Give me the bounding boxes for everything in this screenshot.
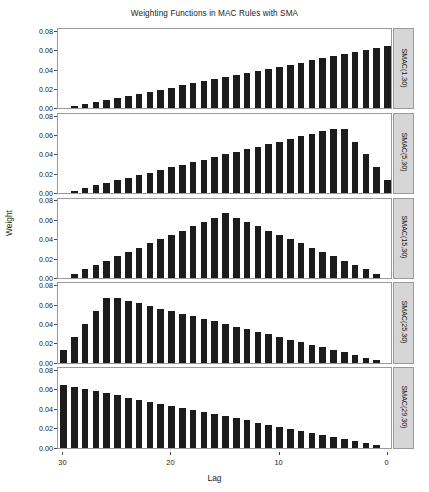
bar [286, 429, 295, 448]
bar [297, 431, 306, 448]
bar [156, 170, 165, 193]
chart-root: Weighting Functions in MAC Rules with SM… [0, 0, 429, 492]
bar-series [58, 29, 391, 108]
bar [200, 319, 209, 363]
bar-series [58, 199, 391, 278]
y-axis-tick-mark [54, 343, 57, 344]
panel-strip-label: SMAC(29,30) [393, 367, 414, 448]
bar [329, 56, 338, 108]
bar [178, 408, 187, 448]
panel-strip-label: SMAC(15,30) [393, 198, 414, 279]
bar [189, 410, 198, 447]
panel-smac2930: 0.000.020.040.060.08SMAC(29,30) [57, 367, 392, 448]
panel-strip-label: SMAC(1,30) [393, 28, 414, 109]
bar [70, 274, 79, 278]
plot-area [57, 113, 392, 194]
y-axis-tick-mark [54, 363, 57, 364]
y-axis-tick-mark [54, 89, 57, 90]
bar [264, 69, 273, 109]
bar [383, 46, 392, 108]
y-axis-tick-label: 0.04 [39, 65, 53, 74]
y-axis-tick-label: 0.06 [39, 46, 53, 55]
y-axis-tick-mark [54, 70, 57, 71]
bar [318, 58, 327, 108]
bar [254, 71, 263, 108]
bar [254, 423, 263, 448]
y-axis-tick-mark [54, 278, 57, 279]
bar [178, 165, 187, 193]
bar [156, 239, 165, 278]
y-axis-tick-label: 0.02 [39, 169, 53, 178]
bar [318, 252, 327, 278]
y-axis-tick-mark [54, 324, 57, 325]
bar [308, 433, 317, 448]
x-axis-tick-mark [170, 452, 171, 455]
bar [372, 48, 381, 108]
bar [340, 352, 349, 362]
bar [308, 60, 317, 108]
bar [167, 235, 176, 278]
bar [124, 398, 133, 448]
bar [318, 131, 327, 193]
bar [59, 385, 68, 447]
bar [167, 88, 176, 109]
y-axis-tick-mark [54, 370, 57, 371]
bar [221, 154, 230, 193]
bar [329, 350, 338, 363]
y-axis-tick-label: 0.02 [39, 85, 53, 94]
bar [167, 167, 176, 193]
y-axis-tick-mark [54, 135, 57, 136]
bar [275, 142, 284, 194]
y-axis-tick-label: 0.06 [39, 385, 53, 394]
bar [308, 345, 317, 363]
bar [210, 414, 219, 447]
y-axis-tick-mark [54, 108, 57, 109]
bar-series [58, 283, 391, 362]
bar [275, 235, 284, 278]
bar [362, 154, 371, 193]
bar [146, 306, 155, 363]
bar [264, 334, 273, 362]
panel-smac130: 0.000.020.040.060.08SMAC(1,30) [57, 28, 392, 109]
y-axis-tick-label: 0.08 [39, 196, 53, 205]
bar [383, 180, 392, 193]
bar [102, 393, 111, 447]
bar [243, 149, 252, 193]
bar [102, 100, 111, 108]
panel-smac1530: 0.000.020.040.060.08SMAC(15,30) [57, 198, 392, 279]
bar [210, 157, 219, 193]
bar [243, 329, 252, 363]
bar [81, 269, 90, 278]
bar [264, 144, 273, 193]
bar [178, 231, 187, 278]
bar [92, 102, 101, 108]
bar [189, 226, 198, 278]
bar [275, 427, 284, 448]
x-axis-tick-mark [387, 452, 388, 455]
bar [178, 85, 187, 108]
plot-area [57, 367, 392, 448]
bar [156, 309, 165, 363]
y-axis-tick-label: 0.08 [39, 111, 53, 120]
x-axis-tick-label: 10 [274, 458, 282, 467]
panel-strip-label: SMAC(5,30) [393, 113, 414, 194]
bar [232, 218, 241, 278]
bar [254, 226, 263, 278]
y-axis-tick-mark [54, 220, 57, 221]
plot-area [57, 282, 392, 363]
bar [318, 435, 327, 447]
y-axis-tick-mark [54, 305, 57, 306]
y-axis-tick-label: 0.08 [39, 26, 53, 35]
bar [297, 136, 306, 193]
bar [297, 243, 306, 277]
bar [189, 83, 198, 108]
bar [70, 387, 79, 447]
bar [135, 94, 144, 109]
bar [113, 180, 122, 193]
bar [351, 265, 360, 278]
y-axis-tick-mark [54, 154, 57, 155]
bar [362, 443, 371, 447]
y-axis-tick-label: 0.04 [39, 235, 53, 244]
bar [200, 222, 209, 278]
bar [372, 360, 381, 363]
